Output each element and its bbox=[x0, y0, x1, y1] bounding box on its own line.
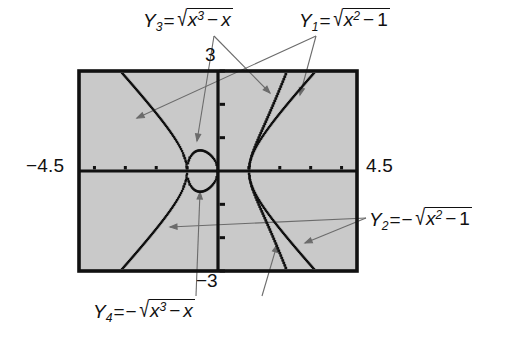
curve-point bbox=[256, 201, 258, 203]
curve-point bbox=[258, 206, 260, 208]
curve-point bbox=[184, 160, 186, 162]
curve-point bbox=[269, 109, 271, 111]
curve-point bbox=[216, 171, 218, 173]
y2-equals: = bbox=[388, 209, 401, 230]
curve-point bbox=[274, 97, 276, 99]
curve-point bbox=[248, 165, 250, 167]
curve-point bbox=[253, 194, 255, 196]
curve-point bbox=[278, 88, 280, 90]
curve-point bbox=[183, 157, 185, 159]
curve-point bbox=[268, 111, 270, 113]
radical-icon: √ bbox=[139, 299, 149, 321]
curve-point bbox=[271, 235, 273, 237]
curve-point bbox=[265, 118, 267, 120]
curve-point bbox=[258, 134, 260, 136]
y3-radicand-tail: x bbox=[221, 9, 231, 30]
curve-point bbox=[182, 154, 184, 156]
curve-point bbox=[182, 152, 184, 154]
curve-point bbox=[282, 262, 284, 264]
curve-point bbox=[282, 78, 284, 80]
curve-point bbox=[265, 222, 267, 224]
y3-radicand: x3−x bbox=[187, 8, 233, 29]
curve-point bbox=[270, 107, 272, 109]
curve-point bbox=[215, 176, 217, 178]
curve-point bbox=[185, 175, 187, 177]
curve-point bbox=[187, 180, 189, 182]
y1-radicand-tail: 1 bbox=[377, 9, 388, 30]
x-min-label: −4.5 bbox=[26, 155, 64, 177]
curve-point bbox=[182, 185, 184, 187]
x-max-label: 4.5 bbox=[366, 155, 393, 177]
y1-radicand-operator: − bbox=[360, 9, 377, 30]
y2-radicand-operator: − bbox=[442, 208, 459, 229]
radical-icon: √ bbox=[415, 207, 425, 229]
y4-radicand-base: x bbox=[150, 300, 160, 321]
curve-point bbox=[180, 148, 182, 150]
label-y4-equation: Y4=−√x3−x bbox=[93, 300, 195, 324]
curve-point bbox=[277, 90, 279, 92]
y2-radicand-base: x bbox=[426, 208, 436, 229]
curve-point bbox=[257, 203, 259, 205]
curve-point bbox=[182, 188, 184, 190]
curve-point bbox=[281, 259, 283, 261]
curve-point bbox=[248, 175, 250, 177]
curve-point bbox=[248, 177, 250, 179]
curve-point bbox=[254, 144, 256, 146]
curve-point bbox=[255, 199, 257, 201]
curve-point bbox=[250, 185, 252, 187]
curve-point bbox=[267, 226, 269, 228]
curve-point bbox=[279, 86, 281, 88]
y-min-label: −3 bbox=[196, 270, 218, 292]
curve-point bbox=[251, 188, 253, 190]
curve-point bbox=[215, 161, 217, 163]
curve-point bbox=[259, 208, 261, 210]
curve-point bbox=[273, 240, 275, 242]
y1-radicand: x2−1 bbox=[343, 8, 390, 29]
label-y2-equation: Y2=−√x2−1 bbox=[369, 208, 472, 232]
curve-point bbox=[261, 127, 263, 129]
curve-point bbox=[252, 149, 254, 151]
curve-point bbox=[181, 190, 183, 192]
curve-point bbox=[275, 95, 277, 97]
y3-radicand-operator: − bbox=[204, 9, 221, 30]
y-max-label: 3 bbox=[205, 44, 216, 66]
curve-point bbox=[264, 219, 266, 221]
y1-radicand-base: x bbox=[344, 9, 354, 30]
y4-radicand: x3−x bbox=[149, 299, 195, 320]
curve-point bbox=[281, 81, 283, 83]
curve-point bbox=[272, 238, 274, 240]
curve-point bbox=[252, 191, 254, 193]
y2-radical-group: √x2−1 bbox=[414, 208, 472, 229]
curve-point bbox=[263, 217, 265, 219]
curve-point bbox=[180, 192, 182, 194]
curve-point bbox=[273, 100, 275, 102]
curve-point bbox=[253, 146, 255, 148]
curve-point bbox=[249, 159, 251, 161]
curve-point bbox=[284, 73, 286, 75]
curve-point bbox=[215, 178, 217, 180]
y1-name: Y bbox=[299, 10, 312, 31]
curve-point bbox=[266, 116, 268, 118]
curve-point bbox=[262, 125, 264, 127]
curve-point bbox=[264, 121, 266, 123]
y2-radicand-tail: 1 bbox=[459, 208, 470, 229]
curve-point bbox=[181, 150, 183, 152]
curve-point bbox=[248, 173, 250, 175]
label-y1-equation: Y1=√x2−1 bbox=[299, 9, 390, 33]
curve-point bbox=[266, 224, 268, 226]
curve-point bbox=[250, 155, 252, 157]
figure-canvas bbox=[0, 0, 530, 340]
curve-point bbox=[263, 123, 265, 125]
y4-leading-minus: − bbox=[126, 301, 138, 322]
curve-point bbox=[256, 139, 258, 141]
curve-point bbox=[274, 242, 276, 244]
curve-point bbox=[284, 267, 286, 269]
curve-point bbox=[187, 162, 189, 164]
curve-point bbox=[248, 163, 250, 165]
curve-point bbox=[272, 102, 274, 104]
curve-point bbox=[257, 136, 259, 138]
curve-point bbox=[279, 254, 281, 256]
curve-point bbox=[271, 105, 273, 107]
curve-point bbox=[248, 167, 250, 169]
y3-radical-group: √x3−x bbox=[176, 9, 233, 30]
